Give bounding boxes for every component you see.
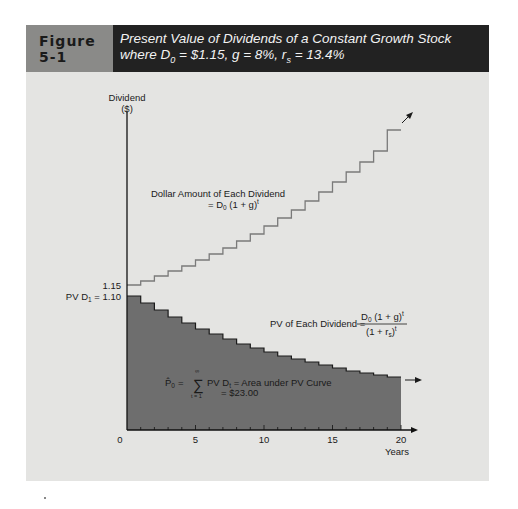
svg-text:5: 5 xyxy=(193,434,198,445)
y-tick-1-15: 1.15 xyxy=(103,280,122,291)
y-axis-label: Dividend xyxy=(109,92,146,103)
sum-value: = $23.00 xyxy=(221,387,258,398)
svg-text:15: 15 xyxy=(327,434,338,445)
pv-fraction-numerator: D0 (1 + g)t xyxy=(361,310,404,323)
pv-area xyxy=(127,296,401,430)
pv-fraction-denominator: (1 + rs)t xyxy=(366,325,397,338)
sum-lower: t = 1 xyxy=(191,393,202,399)
dividend-curve-label: Dollar Amount of Each Dividend xyxy=(151,188,285,199)
pv-d1-label: PV D1 = 1.10 xyxy=(66,291,121,303)
pv-curve-label: PV of Each Dividend = xyxy=(270,318,366,329)
sum-symbol: ∑ xyxy=(193,376,204,394)
svg-text:0: 0 xyxy=(117,434,122,445)
dividend-curve-formula: = D0 (1 + g)t xyxy=(208,198,259,211)
x-axis-title: Years xyxy=(385,446,409,457)
pv-continue-arrow-icon xyxy=(405,377,422,383)
x-tick-labels: 05101520 xyxy=(117,434,406,445)
sum-upper: ∞ xyxy=(195,368,199,374)
dividend-pv-chart: Dividend ($) 1.15 PV D1 = 1.10 Dollar Am… xyxy=(0,0,518,509)
svg-text:20: 20 xyxy=(396,434,407,445)
page-mark xyxy=(44,497,46,499)
dividend-step-line xyxy=(127,130,401,285)
svg-text:10: 10 xyxy=(259,434,270,445)
y-axis-unit: ($) xyxy=(121,103,133,114)
dividend-growth-arrow-icon xyxy=(402,112,413,123)
